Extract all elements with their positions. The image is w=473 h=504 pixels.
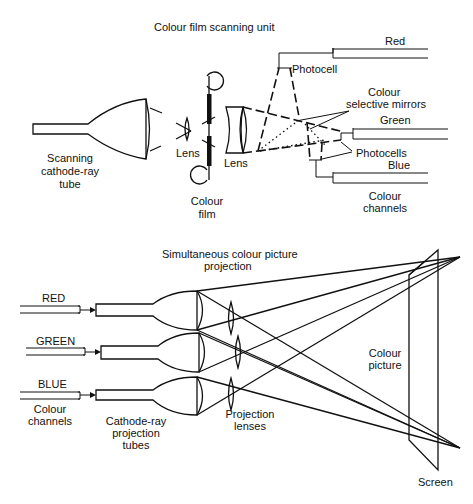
- scan-channels-label-line1: Colour: [369, 190, 402, 202]
- photocells-label: Photocells: [356, 147, 407, 159]
- photocell-blue: [309, 160, 428, 183]
- picture-label-line2: picture: [368, 359, 401, 371]
- scan-channels-label-line2: channels: [363, 202, 408, 214]
- tube-label-line1: Scanning: [47, 152, 93, 164]
- red-channel-label: Red: [385, 35, 405, 47]
- blue-channel-label: Blue: [388, 159, 410, 171]
- mirrors-label-line2: selective mirrors: [346, 98, 427, 110]
- picture-label-line1: Colour: [369, 347, 402, 359]
- light-paths: [243, 68, 344, 160]
- colour-film: [191, 72, 224, 184]
- projection-unit: Simultaneous colour picture projection R…: [20, 248, 460, 488]
- tube-label-line3: tube: [59, 178, 80, 190]
- scanning-unit: Colour film scanning unit Scanning catho…: [33, 21, 448, 220]
- film-label-line2: film: [198, 208, 215, 220]
- screen-label: Screen: [418, 476, 453, 488]
- scanning-lens-2: [226, 107, 247, 153]
- scanning-lens-1: [176, 118, 191, 140]
- proj-channels-label-line1: Colour: [34, 403, 67, 415]
- green-channel-label: Green: [380, 114, 411, 126]
- lens1-label: Lens: [176, 147, 200, 159]
- proj-channels-label-line2: channels: [28, 415, 73, 427]
- colour-tv-diagram: Colour film scanning unit Scanning catho…: [0, 0, 473, 504]
- green-input-label: GREEN: [36, 335, 75, 347]
- projection-title-line2: projection: [204, 260, 252, 272]
- tube-label-line2: cathode-ray: [41, 165, 100, 177]
- lenses-label-line1: Projection: [226, 408, 275, 420]
- lenses-label-line2: lenses: [234, 420, 266, 432]
- tubes-label-line3: tubes: [123, 439, 150, 451]
- photocell-green: [341, 128, 448, 140]
- tubes-label-line2: projection: [112, 427, 160, 439]
- scanning-unit-title: Colour film scanning unit: [154, 21, 274, 33]
- photocell-label: Photocell: [292, 63, 337, 75]
- lens2-label: Lens: [224, 157, 248, 169]
- mirrors-label-line1: Colour: [368, 86, 401, 98]
- tubes-label-line1: Cathode-ray: [106, 415, 167, 427]
- red-input-label: RED: [42, 292, 65, 304]
- projection-title-line1: Simultaneous colour picture: [162, 248, 298, 260]
- film-label-line1: Colour: [191, 195, 224, 207]
- blue-input-label: BLUE: [38, 378, 67, 390]
- scanning-cathode-ray-tube: [33, 99, 162, 159]
